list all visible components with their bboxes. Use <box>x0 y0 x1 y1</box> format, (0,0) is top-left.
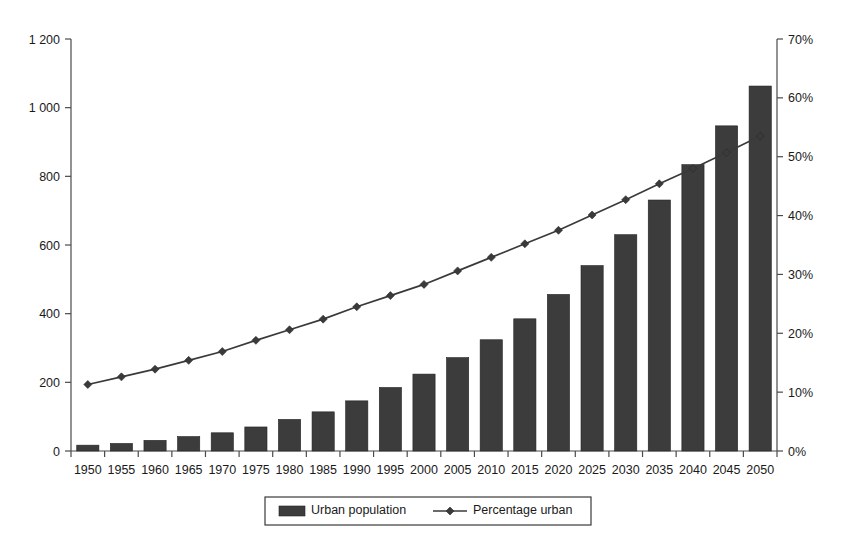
x-axis-category-label: 2040 <box>679 463 707 477</box>
bar-urban-population <box>480 340 502 451</box>
right-axis-tick-label: 10% <box>788 386 813 400</box>
bar-urban-population <box>615 235 637 451</box>
x-axis-ticks <box>71 451 777 457</box>
bar-urban-population <box>312 412 334 451</box>
percentage-urban-marker <box>487 253 495 261</box>
left-axis-tick-label: 800 <box>39 170 60 184</box>
percentage-urban-marker <box>117 373 125 381</box>
percentage-urban-marker <box>286 326 294 334</box>
bar-urban-population <box>547 294 569 451</box>
bar-urban-population <box>447 358 469 451</box>
chart-legend: Urban populationPercentage urban <box>265 497 591 525</box>
bar-urban-population <box>110 443 132 451</box>
x-axis-category-label: 1995 <box>376 463 404 477</box>
bar-urban-population <box>715 126 737 451</box>
bar-urban-population <box>581 266 603 451</box>
x-axis-category-labels: 1950195519601965197019751980198519901995… <box>74 463 774 477</box>
left-axis-tick-label: 0 <box>53 445 60 459</box>
bar-urban-population <box>682 165 704 451</box>
bar-urban-population <box>346 401 368 451</box>
percentage-urban-marker <box>353 303 361 311</box>
bar-urban-population <box>379 387 401 451</box>
x-axis-category-label: 2000 <box>410 463 438 477</box>
x-axis-category-label: 1950 <box>74 463 102 477</box>
right-axis-tick-label: 20% <box>788 327 813 341</box>
legend-label-percentage-urban: Percentage urban <box>473 503 572 517</box>
right-axis-tick-label: 40% <box>788 209 813 223</box>
x-axis-category-label: 1975 <box>242 463 270 477</box>
bar-urban-population <box>278 419 300 451</box>
right-axis-tick-label: 30% <box>788 268 813 282</box>
legend-swatch-urban-population <box>279 506 305 516</box>
percentage-urban-marker <box>319 315 327 323</box>
percentage-urban-marker <box>554 226 562 234</box>
x-axis-category-label: 2005 <box>444 463 472 477</box>
x-axis-category-label: 2050 <box>746 463 774 477</box>
bar-urban-population <box>77 445 99 451</box>
chart-container: 02004006008001 0001 200 0%10%20%30%40%50… <box>0 0 854 545</box>
bar-series-urban-population <box>77 86 772 451</box>
bar-urban-population <box>648 200 670 451</box>
right-axis-ticks: 0%10%20%30%40%50%60%70% <box>777 33 813 459</box>
x-axis-category-label: 2030 <box>612 463 640 477</box>
x-axis-category-label: 1965 <box>175 463 203 477</box>
percentage-urban-marker <box>185 356 193 364</box>
bar-urban-population <box>178 437 200 451</box>
bar-urban-population <box>245 427 267 451</box>
legend-label-urban-population: Urban population <box>311 503 406 517</box>
x-axis-category-label: 1990 <box>343 463 371 477</box>
percentage-urban-marker <box>420 280 428 288</box>
left-axis-tick-label: 200 <box>39 376 60 390</box>
x-axis-category-label: 2015 <box>511 463 539 477</box>
right-axis-tick-label: 60% <box>788 91 813 105</box>
percentage-urban-marker <box>84 380 92 388</box>
left-axis-tick-label: 1 200 <box>29 33 60 47</box>
left-axis-tick-label: 600 <box>39 239 60 253</box>
x-axis-category-label: 1970 <box>208 463 236 477</box>
x-axis-category-label: 2010 <box>477 463 505 477</box>
bar-urban-population <box>514 319 536 451</box>
x-axis-category-label: 2020 <box>545 463 573 477</box>
percentage-urban-marker <box>588 211 596 219</box>
right-axis-tick-label: 0% <box>788 445 806 459</box>
left-axis-ticks: 02004006008001 0001 200 <box>29 33 71 459</box>
percentage-urban-marker <box>655 180 663 188</box>
x-axis-category-label: 1985 <box>309 463 337 477</box>
percentage-urban-marker <box>218 348 226 356</box>
x-axis-category-label: 2035 <box>645 463 673 477</box>
dual-axis-bar-line-chart: 02004006008001 0001 200 0%10%20%30%40%50… <box>0 0 854 545</box>
bar-urban-population <box>144 440 166 451</box>
right-axis-tick-label: 70% <box>788 33 813 47</box>
x-axis-category-label: 1960 <box>141 463 169 477</box>
percentage-urban-marker <box>454 267 462 275</box>
bar-urban-population <box>413 374 435 451</box>
bar-urban-population <box>211 433 233 451</box>
x-axis-category-label: 1980 <box>276 463 304 477</box>
percentage-urban-marker <box>622 196 630 204</box>
percentage-urban-marker <box>386 292 394 300</box>
left-axis-tick-label: 1 000 <box>29 101 60 115</box>
right-axis-tick-label: 50% <box>788 150 813 164</box>
x-axis-category-label: 2045 <box>713 463 741 477</box>
percentage-urban-marker <box>151 365 159 373</box>
percentage-urban-marker <box>521 240 529 248</box>
x-axis-category-label: 1955 <box>108 463 136 477</box>
left-axis-tick-label: 400 <box>39 307 60 321</box>
x-axis-category-label: 2025 <box>578 463 606 477</box>
percentage-urban-marker <box>252 336 260 344</box>
